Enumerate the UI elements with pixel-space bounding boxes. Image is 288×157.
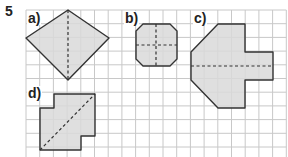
shape-d: [40, 94, 95, 150]
shape-b-label: b): [124, 11, 139, 25]
shape-b: [136, 24, 177, 66]
shape-a-label: a): [27, 11, 41, 25]
shape-c: [191, 24, 273, 108]
grid-diagram: [0, 0, 288, 157]
shape-c-label: c): [193, 11, 207, 25]
shape-d-label: d): [27, 86, 42, 100]
